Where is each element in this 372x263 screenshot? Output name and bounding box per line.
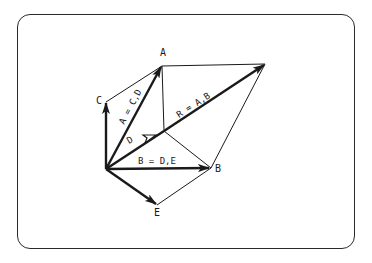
point-label-c: C <box>96 95 102 106</box>
vector-e <box>106 169 156 204</box>
vector-label-r: R = A,B <box>175 91 212 120</box>
line-a-to-r <box>162 64 265 66</box>
construction-lines <box>106 64 265 205</box>
vector-a <box>106 67 161 169</box>
line-b-to-e <box>157 168 211 205</box>
line-r-to-b <box>211 64 265 168</box>
vector-r <box>164 65 264 131</box>
line-a-to-d <box>162 66 164 131</box>
vector-label-b: B = D,E <box>138 156 176 166</box>
point-label-b: B <box>215 163 221 174</box>
vector-diagram: A B C E A = C,D R = A,B B = D,E D <box>0 0 372 263</box>
point-label-a: A <box>160 47 166 58</box>
vector-label-d: D <box>125 134 135 145</box>
vector-b <box>106 168 209 169</box>
point-label-e: E <box>154 207 160 218</box>
